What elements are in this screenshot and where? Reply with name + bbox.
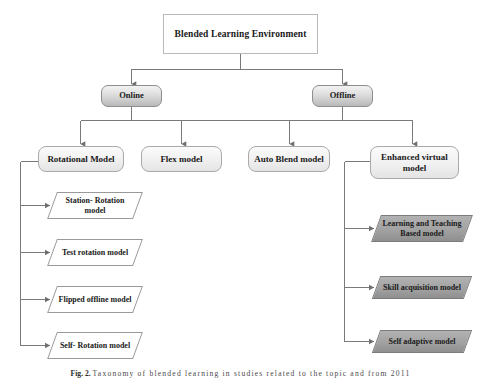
node-test-rotation-model[interactable]: Test rotation model: [52, 239, 138, 266]
node-label: Flex model: [157, 154, 205, 164]
node-label: Learning and Teaching Based model: [376, 219, 468, 237]
figure-caption: Fig. 2. Taxonomy of blended learning in …: [0, 369, 481, 378]
node-skill-acquisition-model[interactable]: Skill acquisition model: [376, 276, 468, 299]
node-label: Auto Blend model: [251, 154, 327, 164]
node-label: Enhanced virtual model: [371, 152, 458, 173]
node-label: Self adaptive model: [385, 337, 458, 346]
node-label: Test rotation model: [59, 248, 131, 257]
node-flipped-offline-model[interactable]: Flipped offline model: [52, 286, 138, 313]
node-label: Online: [116, 91, 147, 101]
node-label: Offline: [327, 91, 359, 101]
node-label: Blended Learning Environment: [172, 29, 310, 40]
node-auto-blend-model[interactable]: Auto Blend model: [248, 146, 330, 172]
node-self-rotation-model[interactable]: Self- Rotation model: [52, 332, 138, 359]
node-station-rotation-model[interactable]: Station- Rotation model: [52, 192, 138, 219]
node-learning-and-teaching-based-model[interactable]: Learning and Teaching Based model: [376, 215, 468, 242]
node-label: Self- Rotation model: [57, 341, 133, 350]
node-offline[interactable]: Offline: [312, 85, 373, 107]
node-label: Flipped offline model: [56, 295, 135, 304]
node-online[interactable]: Online: [101, 85, 162, 107]
node-enhanced-virtual-model[interactable]: Enhanced virtual model: [370, 146, 459, 179]
node-flex-model[interactable]: Flex model: [141, 146, 222, 172]
node-blended-learning-environment[interactable]: Blended Learning Environment: [163, 14, 318, 54]
node-rotational-model[interactable]: Rotational Model: [38, 146, 124, 172]
figure-caption-text: Taxonomy of blended learning in studies …: [93, 369, 411, 378]
node-label: Skill acquisition model: [380, 283, 464, 292]
node-label: Rotational Model: [44, 154, 117, 164]
connector-lines: [0, 0, 481, 380]
figure-caption-label: Fig. 2.: [71, 369, 91, 378]
node-self-adaptive-model[interactable]: Self adaptive model: [376, 330, 468, 353]
figure-blended-learning-taxonomy: Blended Learning Environment Online Offl…: [0, 0, 481, 380]
node-label: Station- Rotation model: [52, 196, 138, 214]
